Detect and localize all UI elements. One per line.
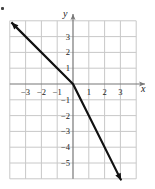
x-axis-label: x xyxy=(140,83,146,94)
coordinate-plot: xy−3−2−1123321−1−2−3−4−5 xyxy=(0,0,155,189)
y-axis-label: y xyxy=(62,8,68,19)
y-tick-label: 2 xyxy=(66,47,70,57)
x-tick-label: 1 xyxy=(87,87,91,97)
y-tick-label: −5 xyxy=(61,158,70,168)
y-tick-label: 1 xyxy=(66,63,70,73)
x-tick-label: −2 xyxy=(37,87,46,97)
y-tick-label: 3 xyxy=(66,32,70,42)
x-tick-label: 3 xyxy=(118,87,122,97)
x-tick-label: 2 xyxy=(102,87,106,97)
y-tick-label: −1 xyxy=(61,95,70,105)
y-tick-label: −2 xyxy=(61,111,70,121)
y-tick-label: −3 xyxy=(61,126,70,136)
x-tick-label: −3 xyxy=(21,87,30,97)
y-tick-label: −4 xyxy=(61,142,71,152)
